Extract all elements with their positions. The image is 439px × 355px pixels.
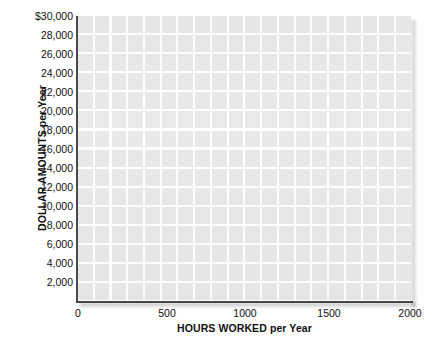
y-tick-label: 18,000: [20, 125, 73, 136]
y-tick-label: 26,000: [20, 49, 73, 60]
x-tick-label: 1500: [309, 307, 349, 320]
y-tick-label: 12,000: [20, 182, 73, 193]
x-tick-label: 500: [147, 307, 187, 320]
plot-drop-shadow-right: [412, 20, 418, 307]
plot-area[interactable]: [76, 16, 413, 303]
chart-figure: DOLLAR AMOUNTS per Year $30,000 28,000 2…: [0, 0, 439, 355]
x-axis-tick-labels: 0 500 1000 1500 2000: [0, 307, 439, 323]
x-tick-label: 1000: [225, 307, 265, 320]
y-tick-label: 14,000: [20, 163, 73, 174]
y-tick-label: 2,000: [20, 277, 73, 288]
x-axis-title: HOURS WORKED per Year: [76, 322, 413, 334]
y-tick-label: 28,000: [20, 30, 73, 41]
y-tick-label: 8,000: [20, 220, 73, 231]
y-tick-label: 20,000: [20, 106, 73, 117]
y-tick-label: $30,000: [20, 11, 73, 22]
y-tick-label: 4,000: [20, 258, 73, 269]
plot-gridlines: [78, 16, 413, 301]
x-tick-label: 0: [63, 307, 93, 320]
y-tick-label: 6,000: [20, 239, 73, 250]
x-tick-label: 2000: [390, 307, 430, 320]
y-axis-tick-labels: $30,000 28,000 26,000 24,000 22,000 20,0…: [20, 10, 73, 305]
y-tick-label: 10,000: [20, 201, 73, 212]
y-tick-label: 24,000: [20, 68, 73, 79]
y-tick-label: 22,000: [20, 87, 73, 98]
y-tick-label: 16,000: [20, 144, 73, 155]
